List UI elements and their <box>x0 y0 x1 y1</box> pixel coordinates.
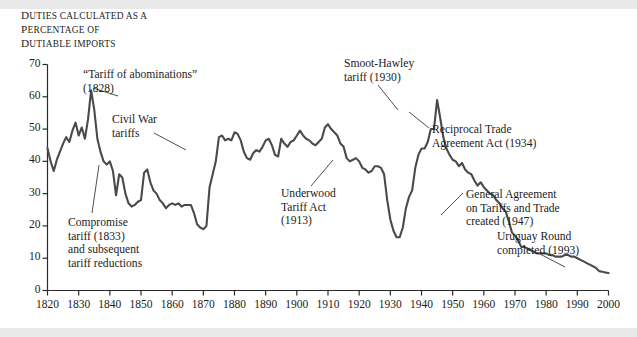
y-tick-0: 0 <box>17 283 41 295</box>
annotation-reciprocal-trade-agreement-act-line-2: Agreement Act (1934) <box>432 137 536 151</box>
annotation-compromise-tariff-line-4: tariff reductions <box>68 257 142 271</box>
annotation-general-agreement-gatt-line-2: on Tariffs and Trade <box>466 202 560 216</box>
annotation-uruguay-round: Uruguay Roundcompleted (1993) <box>497 230 579 257</box>
annotation-leader-lines <box>92 85 565 267</box>
annotation-general-agreement-gatt-line-3: created (1947) <box>466 215 560 229</box>
annotation-compromise-tariff-line-1: Compromise <box>68 216 142 230</box>
annotation-smoot-hawley-tariff-line-2: tariff (1930) <box>344 71 414 85</box>
annotation-compromise-tariff: Compromisetariff (1833)and subsequenttar… <box>68 216 142 270</box>
annotation-reciprocal-trade-agreement-act: Reciprocal TradeAgreement Act (1934) <box>432 123 536 150</box>
y-tick-10: 10 <box>17 250 41 262</box>
annotation-uruguay-round-line-2: completed (1993) <box>497 244 579 258</box>
annotation-civil-war-tariffs: Civil Wartariffs <box>112 113 157 140</box>
annotation-civil-war-tariffs-line-1: Civil War <box>112 113 157 127</box>
x-tick-2000: 2000 <box>589 298 629 310</box>
chart-figure: DUTIES CALCULATED AS A PERCENTAGE OF DUT… <box>0 0 637 337</box>
annotation-smoot-hawley-tariff-line-1: Smoot-Hawley <box>344 57 414 71</box>
annotation-tariff-of-abominations-line-1: “Tariff of abominations” <box>83 68 197 82</box>
annotation-underwood-tariff-act: UnderwoodTariff Act(1913) <box>281 187 336 228</box>
y-tick-20: 20 <box>17 218 41 230</box>
y-tick-60: 60 <box>17 89 41 101</box>
annotation-civil-war-tariffs-line-2: tariffs <box>112 127 157 141</box>
y-tick-30: 30 <box>17 186 41 198</box>
y-tick-40: 40 <box>17 153 41 165</box>
annotation-underwood-tariff-act-line-3: (1913) <box>281 214 336 228</box>
y-tick-70: 70 <box>17 57 41 69</box>
annotation-general-agreement-gatt-line-1: General Agreement <box>466 188 560 202</box>
plot-area <box>0 0 637 337</box>
annotation-compromise-tariff-line-3: and subsequent <box>68 243 142 257</box>
annotation-underwood-tariff-act-line-1: Underwood <box>281 187 336 201</box>
annotation-tariff-of-abominations-line-2: (1828) <box>83 82 197 96</box>
annotation-underwood-tariff-act-line-2: Tariff Act <box>281 201 336 215</box>
annotation-tariff-of-abominations: “Tariff of abominations”(1828) <box>83 68 197 95</box>
annotation-smoot-hawley-tariff: Smoot-Hawleytariff (1930) <box>344 57 414 84</box>
y-tick-50: 50 <box>17 121 41 133</box>
annotation-uruguay-round-line-1: Uruguay Round <box>497 230 579 244</box>
annotation-reciprocal-trade-agreement-act-line-1: Reciprocal Trade <box>432 123 536 137</box>
annotation-general-agreement-gatt: General Agreementon Tariffs and Tradecre… <box>466 188 560 229</box>
annotation-compromise-tariff-line-2: tariff (1833) <box>68 230 142 244</box>
